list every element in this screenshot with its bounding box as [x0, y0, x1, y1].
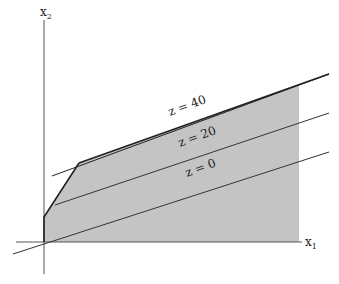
x2-axis-label: x2 — [40, 5, 52, 21]
label-z40: z = 40 — [166, 92, 208, 119]
lp-diagram: x2 x1 z = 40 z = 20 z = 0 — [0, 0, 339, 284]
x1-axis-label: x1 — [305, 235, 317, 251]
